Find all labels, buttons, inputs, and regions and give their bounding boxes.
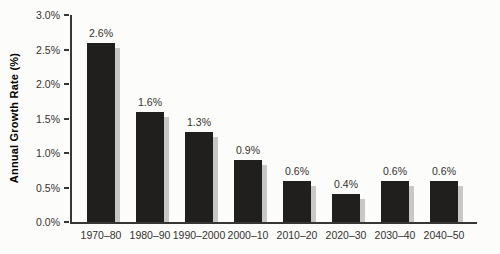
y-tick-label: 2.0% <box>26 79 60 89</box>
y-axis-title: Annual Growth Rate (%) <box>8 53 20 183</box>
y-tick-mark <box>64 221 69 223</box>
bar-value-label: 1.3% <box>169 116 229 128</box>
bar-value-label: 2.6% <box>71 27 131 39</box>
bar-value-label: 1.6% <box>120 96 180 108</box>
y-axis-line <box>70 15 72 224</box>
y-tick-mark <box>64 83 69 85</box>
bar <box>283 181 311 222</box>
x-axis-category-label: 2040–50 <box>409 229 479 241</box>
bar-value-label: 0.6% <box>414 165 474 177</box>
y-tick-mark <box>64 118 69 120</box>
bar <box>430 181 458 222</box>
bar <box>87 43 115 222</box>
bar <box>136 112 164 222</box>
y-tick-label: 0.0% <box>26 217 60 227</box>
y-tick-label: 1.0% <box>26 148 60 158</box>
bar <box>381 181 409 222</box>
bar-value-label: 0.4% <box>316 178 376 190</box>
y-tick-mark <box>64 14 69 16</box>
y-tick-label: 0.5% <box>26 183 60 193</box>
y-tick-label: 2.5% <box>26 45 60 55</box>
bar-value-label: 0.9% <box>218 144 278 156</box>
bar <box>185 132 213 222</box>
bar-value-label: 0.6% <box>267 165 327 177</box>
y-tick-mark <box>64 49 69 51</box>
bar <box>332 194 360 222</box>
y-tick-label: 3.0% <box>26 10 60 20</box>
x-axis-line <box>72 222 477 224</box>
y-tick-label: 1.5% <box>26 114 60 124</box>
y-tick-mark <box>64 152 69 154</box>
bar <box>234 160 262 222</box>
y-tick-mark <box>64 187 69 189</box>
bar-chart-figure: Annual Growth Rate (%) 0.0%0.5%1.0%1.5%2… <box>0 0 500 254</box>
